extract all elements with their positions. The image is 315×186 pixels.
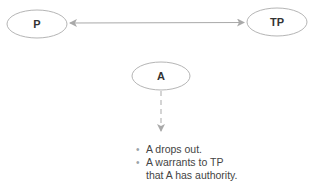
notes-list: • A drops out. • A warrants to TP that A… — [136, 143, 237, 182]
bullet-icon: • — [136, 143, 140, 156]
principal-label: P — [33, 18, 40, 30]
bullet-icon: • — [136, 156, 140, 169]
principal-node: P — [7, 10, 67, 38]
principal-third-party-arrow — [70, 23, 244, 24]
note-item: • A warrants to TP — [136, 156, 237, 169]
third-party-label: TP — [270, 16, 284, 28]
third-party-node: TP — [247, 8, 307, 36]
note-item-continuation: that A has authority. — [136, 169, 237, 182]
note-text: A drops out. — [146, 143, 202, 155]
agent-label: A — [157, 70, 165, 82]
note-item: • A drops out. — [136, 143, 237, 156]
agent-node: A — [132, 62, 190, 90]
note-text: A warrants to TP — [146, 156, 223, 168]
note-text: that A has authority. — [146, 169, 237, 181]
